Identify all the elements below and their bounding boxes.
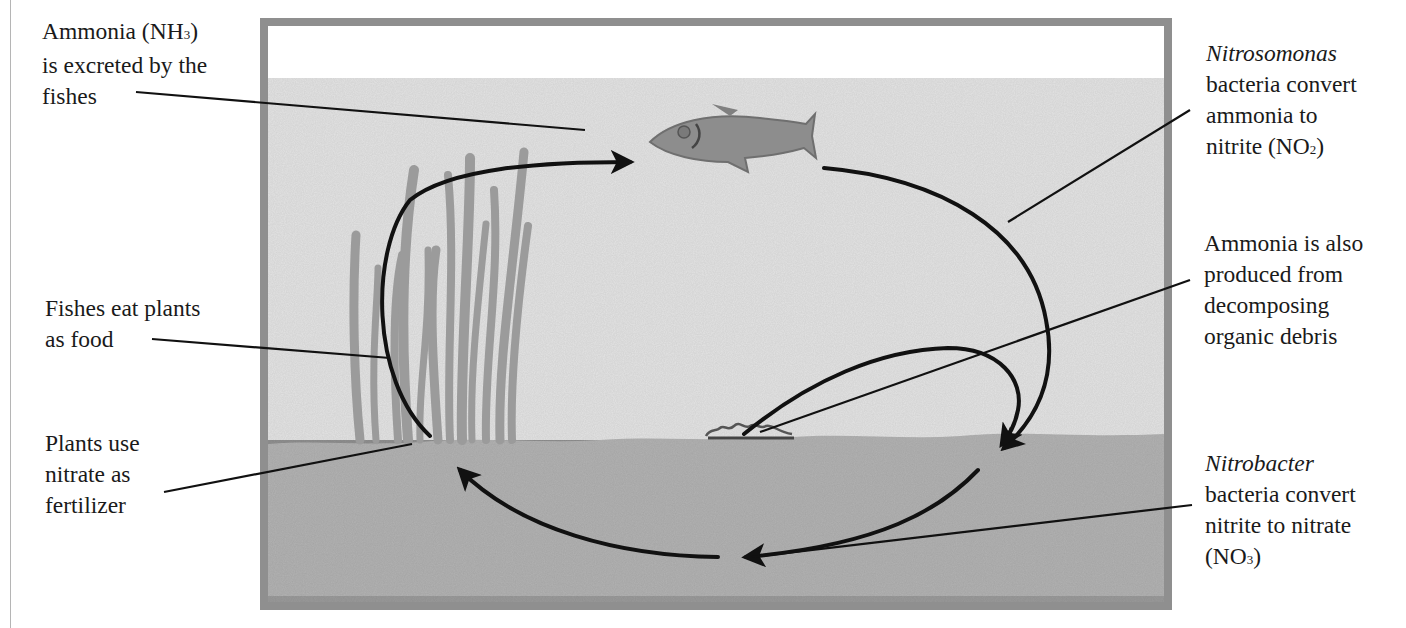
label-ammonia-excreted: Ammonia (NH3) is excreted by the fishes bbox=[42, 16, 207, 112]
label-plants-use-nitrate: Plants use nitrate as fertilizer bbox=[45, 428, 140, 521]
label-fish-eat-plants: Fishes eat plants as food bbox=[45, 293, 200, 355]
aquarium-illustration bbox=[0, 0, 1406, 628]
label-ammonia-debris: Ammonia is also produced from decomposin… bbox=[1204, 228, 1363, 352]
label-nitrosomonas: Nitrosomonas bacteria convert ammonia to… bbox=[1206, 38, 1357, 165]
label-nitrobacter: Nitrobacter bacteria convert nitrite to … bbox=[1205, 448, 1356, 575]
